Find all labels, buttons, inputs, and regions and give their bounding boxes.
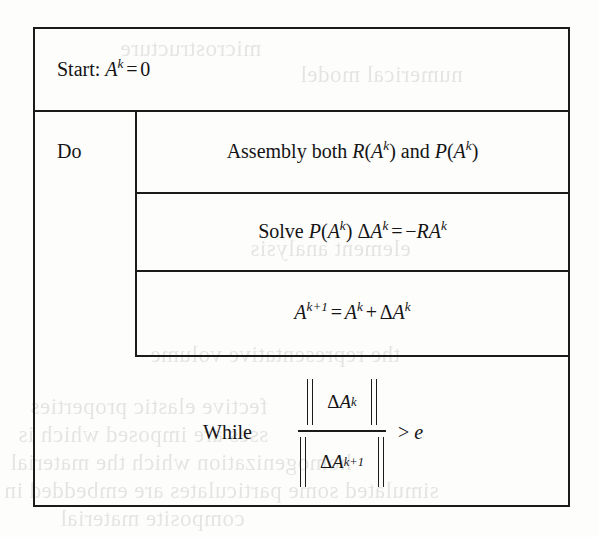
assembly-term2-function: P bbox=[435, 140, 447, 162]
start-value: 0 bbox=[140, 58, 150, 80]
while-tolerance: e bbox=[414, 421, 423, 443]
denominator-expression: ΔAk+1 bbox=[306, 451, 378, 473]
solve-unknown: A bbox=[370, 220, 382, 242]
update-rhs-exponent: k bbox=[357, 299, 363, 314]
norm-bar-right-icon bbox=[371, 379, 377, 425]
solve-matrix-function: P bbox=[309, 220, 321, 242]
do-label: Do bbox=[57, 139, 81, 164]
update-increment-variable: A bbox=[393, 301, 405, 323]
solve-rhs-residual: R bbox=[417, 220, 429, 242]
denominator-delta: Δ bbox=[320, 451, 332, 473]
denominator-variable: A bbox=[332, 451, 344, 473]
while-comparator: > bbox=[398, 421, 409, 443]
while-label: While bbox=[203, 421, 252, 444]
numerator-variable: A bbox=[339, 391, 351, 413]
solve-delta: Δ bbox=[357, 220, 370, 242]
figure-canvas: fective elastic properties sses are impo… bbox=[0, 0, 599, 537]
row-do-label: Do bbox=[35, 110, 135, 192]
fraction-denominator: ΔAk+1 bbox=[298, 432, 386, 490]
row-while: While ΔAk ΔAk+1 bbox=[203, 360, 423, 505]
solve-rhs-exponent: k bbox=[441, 218, 447, 233]
algorithm-box: Start: Ak=0 Do Assembly both R(Ak) and P… bbox=[33, 27, 570, 507]
row-step-update: Ak+1=Ak+ΔAk bbox=[135, 270, 570, 355]
start-label: Start: bbox=[57, 58, 100, 80]
solve-equals: = bbox=[388, 220, 405, 242]
numerator-expression: ΔAk bbox=[313, 391, 370, 413]
solve-statement: Solve P(Ak) ΔAk=−RAk bbox=[258, 219, 447, 244]
divider-below-update bbox=[135, 355, 568, 357]
row-step-assembly: Assembly both R(Ak) and P(Ak) bbox=[135, 110, 570, 192]
update-rhs-variable: A bbox=[345, 301, 357, 323]
norm-bar-right-icon bbox=[378, 437, 384, 487]
fraction-numerator: ΔAk bbox=[298, 376, 386, 430]
while-comparison: > e bbox=[398, 421, 423, 444]
solve-rhs-sign: − bbox=[405, 220, 416, 242]
start-equals: = bbox=[123, 58, 140, 80]
bleed-line: composite material bbox=[60, 506, 245, 532]
update-equals: = bbox=[328, 301, 345, 323]
assembly-term1-argument: A bbox=[371, 140, 383, 162]
row-start: Start: Ak=0 bbox=[35, 29, 568, 110]
assembly-conjunction: and bbox=[401, 140, 430, 162]
numerator-delta: Δ bbox=[327, 391, 339, 413]
row-step-solve: Solve P(Ak) ΔAk=−RAk bbox=[135, 192, 570, 270]
assembly-words-before: Assembly both bbox=[227, 140, 348, 162]
update-statement: Ak+1=Ak+ΔAk bbox=[294, 300, 410, 325]
solve-matrix-argument: A bbox=[328, 220, 340, 242]
update-lhs-exponent: k+1 bbox=[307, 299, 328, 314]
update-plus: + bbox=[363, 301, 380, 323]
start-variable: A bbox=[105, 58, 117, 80]
assembly-statement: Assembly both R(Ak) and P(Ak) bbox=[227, 139, 479, 164]
solve-rhs-variable: A bbox=[429, 220, 441, 242]
start-statement: Start: Ak=0 bbox=[57, 57, 150, 82]
update-delta: Δ bbox=[380, 301, 393, 323]
update-lhs: A bbox=[294, 301, 306, 323]
assembly-term2-argument: A bbox=[454, 140, 466, 162]
update-increment-exponent: k bbox=[405, 299, 411, 314]
convergence-ratio-fraction: ΔAk ΔAk+1 bbox=[298, 376, 386, 490]
assembly-term1-function: R bbox=[352, 140, 364, 162]
solve-words-before: Solve bbox=[258, 220, 304, 242]
